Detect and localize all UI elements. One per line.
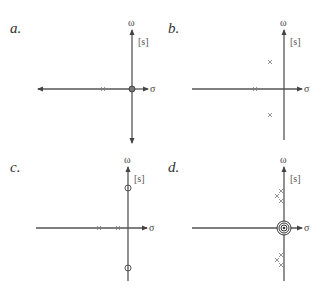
panel-label-d: d. [168,159,179,175]
panel-d: d. σ ω [s] [168,154,310,281]
panel-label-b: b. [168,20,179,36]
panel-a: a. σ ω [s] [10,17,156,143]
s-plane-label: [s] [134,173,145,184]
omega-label: ω [124,154,131,165]
sigma-label: σ [304,222,310,233]
multiple-zero-circles-icon [277,221,291,235]
omega-label: ω [128,17,135,28]
pole-x-icon [279,199,283,203]
zero-circle-icon [129,86,135,92]
panel-label-c: c. [10,159,20,175]
omega-label: ω [280,17,287,28]
sigma-label: σ [304,83,310,94]
pole-x-icon [275,194,279,198]
pole-x-icon [279,189,283,193]
panel-label-a: a. [10,20,21,36]
pole-x-icon [268,60,272,64]
s-plane-label: [s] [138,36,149,47]
pole-x-icon [279,263,283,267]
sigma-label: σ [150,83,156,94]
pole-zero-figure: a. σ ω [s] b. σ ω [s] c. σ ω [s] d. [0,0,321,297]
pole-x-icon [275,258,279,262]
s-plane-label: [s] [290,173,301,184]
panel-b: b. σ ω [s] [168,17,310,140]
panel-c: c. σ ω [s] [10,154,155,281]
omega-label: ω [280,154,287,165]
pole-x-icon [279,253,283,257]
pole-x-icon [268,113,272,117]
sigma-label: σ [149,222,155,233]
s-plane-label: [s] [290,36,301,47]
